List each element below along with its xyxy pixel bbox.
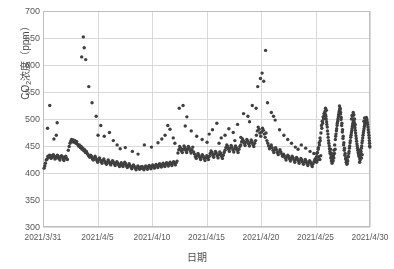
co2-concentration-scatter-chart: 300350400450500550600650700 CO2浓度（ppm） 日… bbox=[0, 0, 394, 269]
y-axis-title-subscript: 2 bbox=[25, 81, 32, 85]
y-axis-tick-400: 400 bbox=[4, 169, 40, 178]
x-axis-tick-6: 2021/4/30 bbox=[335, 233, 394, 242]
y-axis-title-main: CO bbox=[20, 85, 31, 100]
y-axis-tick-300: 300 bbox=[4, 223, 40, 232]
y-axis-title-rest: 浓度（ppm） bbox=[20, 21, 31, 80]
chart-plot-area bbox=[0, 0, 394, 269]
y-axis-title: CO2浓度（ppm） bbox=[17, 0, 32, 131]
y-axis-tick-350: 350 bbox=[4, 196, 40, 205]
y-axis-tick-450: 450 bbox=[4, 142, 40, 151]
x-axis-title: 日期 bbox=[0, 249, 394, 264]
